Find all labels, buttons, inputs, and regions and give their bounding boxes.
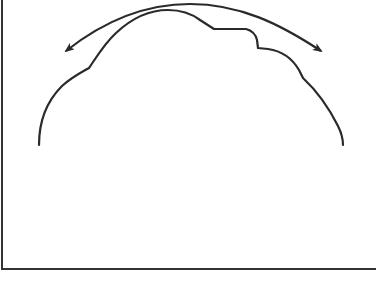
diagram-canvas [0, 0, 376, 283]
dome-outline [39, 10, 343, 145]
diagram-drawing [0, 0, 376, 283]
